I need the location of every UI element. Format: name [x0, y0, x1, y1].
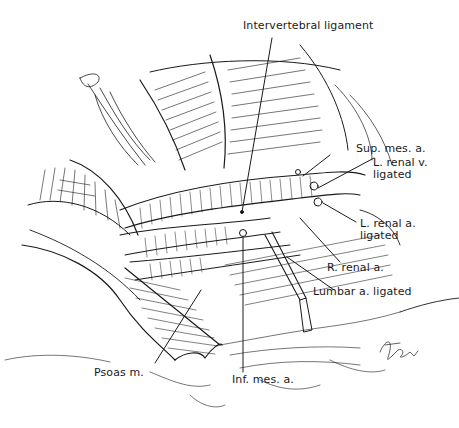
label-l-renal-v-ligated: L. renal v. ligated — [373, 157, 428, 181]
label-lumbar-a-ligated: Lumbar a. ligated — [313, 286, 412, 298]
artist-signature — [380, 342, 418, 359]
retracted-peritoneum — [80, 74, 155, 165]
abdominal-wall-left — [28, 160, 138, 235]
label-intervertebral-ligament: Intervertebral ligament — [243, 20, 373, 32]
leader-lines — [155, 38, 374, 372]
label-sup-mes-a: Sup. mes. a. — [356, 143, 426, 155]
label-inf-mes-a: Inf. mes. a. — [232, 374, 294, 386]
lower-field-tissue — [5, 298, 459, 407]
label-r-renal-a: R. renal a. — [327, 262, 384, 274]
psoas-muscle — [22, 230, 222, 360]
label-l-renal-a-ligated: L. renal a. ligated — [360, 218, 416, 242]
label-psoas-m: Psoas m. — [94, 367, 144, 379]
anatomical-illustration — [0, 0, 459, 428]
abdominal-wall-upper — [140, 45, 392, 170]
